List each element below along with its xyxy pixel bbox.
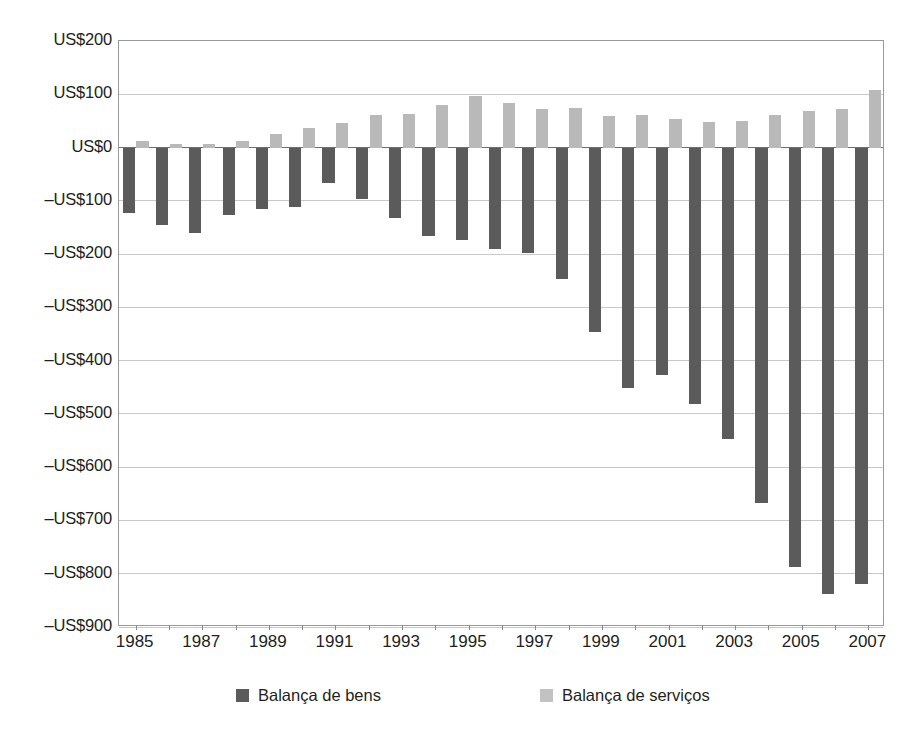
- x-axis-tick-label: 1993: [382, 632, 420, 652]
- y-axis-tick-label: –US$200: [0, 244, 112, 261]
- bar-goods-1995: [456, 148, 468, 241]
- gridline: [119, 573, 883, 574]
- y-axis-tick-label: US$0: [0, 138, 112, 155]
- bar-goods-1987: [189, 148, 201, 233]
- bar-services-1998: [569, 108, 581, 147]
- y-axis-tick-label: –US$400: [0, 351, 112, 368]
- bar-goods-2006: [822, 148, 834, 594]
- gridline: [119, 307, 883, 308]
- bar-goods-2004: [755, 148, 767, 504]
- bar-goods-1999: [589, 148, 601, 332]
- bar-goods-1991: [322, 148, 334, 183]
- bar-services-1997: [536, 109, 548, 148]
- bar-services-1999: [603, 116, 615, 148]
- bar-services-1992: [370, 115, 382, 147]
- legend-label: Balança de serviços: [562, 686, 710, 704]
- x-axis-tick-label: 1989: [249, 632, 287, 652]
- bar-goods-1997: [522, 148, 534, 253]
- y-axis-tick-label: –US$100: [0, 191, 112, 208]
- x-axis-tick: [169, 625, 170, 630]
- gridline: [119, 413, 883, 414]
- x-axis-tick-label: 2005: [782, 632, 820, 652]
- x-axis-tick: [369, 625, 370, 630]
- bar-services-2001: [669, 119, 681, 147]
- x-axis-tick-label: 1991: [316, 632, 354, 652]
- y-axis-tick-label: –US$800: [0, 564, 112, 581]
- x-axis-tick: [302, 625, 303, 630]
- x-axis-tick: [669, 625, 670, 630]
- x-axis-tick: [535, 625, 536, 630]
- bar-services-2006: [836, 109, 848, 147]
- bar-goods-2005: [789, 148, 801, 567]
- bar-services-1994: [436, 105, 448, 147]
- bar-goods-1990: [289, 148, 301, 207]
- x-axis-tick: [702, 625, 703, 630]
- bar-services-1987: [203, 144, 215, 148]
- x-axis-labels: 1985198719891991199319951997199920012003…: [118, 632, 884, 658]
- bar-goods-1986: [156, 148, 168, 225]
- bar-services-2000: [636, 115, 648, 147]
- gridline: [119, 94, 883, 95]
- x-axis-tick: [402, 625, 403, 630]
- bar-goods-2001: [656, 148, 668, 375]
- bar-services-1991: [336, 123, 348, 148]
- bar-goods-1989: [256, 148, 268, 209]
- x-axis-tick-label: 1997: [515, 632, 553, 652]
- bar-services-2003: [736, 121, 748, 148]
- x-axis-tick: [802, 625, 803, 630]
- y-axis-tick-label: –US$500: [0, 404, 112, 421]
- bar-services-1995: [469, 96, 481, 147]
- y-axis-tick-label: –US$300: [0, 297, 112, 314]
- legend-item-servicos: Balança de serviços: [540, 686, 710, 704]
- bar-services-1988: [236, 141, 248, 147]
- legend-item-bens: Balança de bens: [236, 686, 381, 704]
- bar-goods-2000: [622, 148, 634, 389]
- x-axis-tick: [502, 625, 503, 630]
- bar-goods-1996: [489, 148, 501, 250]
- bar-goods-1988: [223, 148, 235, 216]
- x-axis-tick: [269, 625, 270, 630]
- bar-services-2007: [869, 90, 881, 148]
- y-axis-tick-label: –US$900: [0, 617, 112, 634]
- y-axis-tick-label: –US$600: [0, 457, 112, 474]
- x-axis-tick: [136, 625, 137, 630]
- bar-services-1996: [503, 103, 515, 148]
- bar-services-2005: [803, 111, 815, 147]
- y-axis-tick-label: US$100: [0, 84, 112, 101]
- light-gray-swatch: [540, 689, 553, 702]
- gridline: [119, 254, 883, 255]
- dark-gray-swatch: [236, 689, 249, 702]
- x-axis-tick: [735, 625, 736, 630]
- x-axis-tick-label: 1987: [182, 632, 220, 652]
- x-axis-tick-label: 1999: [582, 632, 620, 652]
- x-axis-tick: [469, 625, 470, 630]
- gridline: [119, 520, 883, 521]
- x-axis-tick-label: 1985: [116, 632, 154, 652]
- x-axis-tick: [635, 625, 636, 630]
- x-axis-tick: [236, 625, 237, 630]
- bar-services-1985: [136, 141, 148, 147]
- x-axis-tick-label: 2003: [715, 632, 753, 652]
- chart-legend: Balança de bensBalança de serviços: [0, 686, 911, 716]
- x-axis-tick-label: 1995: [449, 632, 487, 652]
- x-axis-tick: [435, 625, 436, 630]
- x-axis-tick-label: 2007: [848, 632, 886, 652]
- x-axis-tick: [835, 625, 836, 630]
- bar-services-1990: [303, 128, 315, 148]
- bar-services-2002: [703, 122, 715, 148]
- bar-services-1989: [270, 134, 282, 148]
- x-axis-tick: [868, 625, 869, 630]
- bar-goods-1994: [422, 148, 434, 236]
- gridline: [119, 360, 883, 361]
- x-axis-tick: [202, 625, 203, 630]
- bar-goods-2002: [689, 148, 701, 405]
- plot-area: [118, 40, 884, 626]
- y-axis-labels: US$200US$100US$0–US$100–US$200–US$300–US…: [0, 0, 112, 733]
- bar-goods-2003: [722, 148, 734, 439]
- bar-goods-2007: [855, 148, 867, 584]
- bar-goods-1998: [556, 148, 568, 280]
- bar-goods-1985: [123, 148, 135, 213]
- x-axis-tick-label: 2001: [649, 632, 687, 652]
- bar-services-2004: [769, 115, 781, 148]
- y-axis-tick-label: –US$700: [0, 510, 112, 527]
